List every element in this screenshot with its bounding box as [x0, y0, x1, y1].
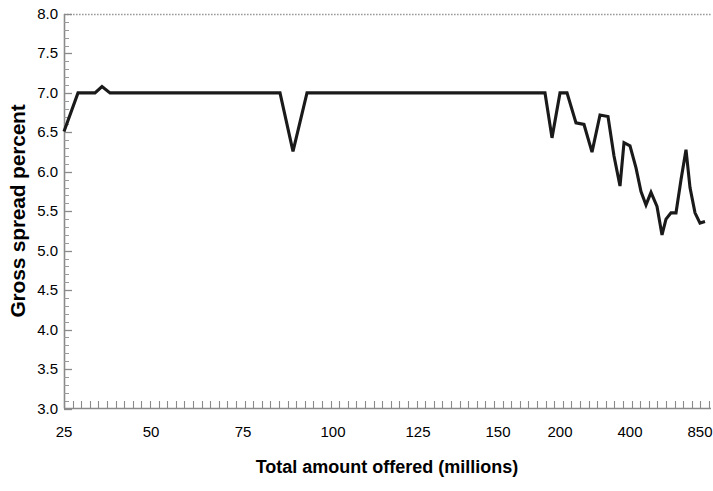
x-axis-title: Total amount offered (millions) [64, 458, 710, 476]
data-series-line [64, 87, 705, 235]
x-axis-ticks [65, 401, 710, 409]
axis-frame [64, 14, 711, 409]
